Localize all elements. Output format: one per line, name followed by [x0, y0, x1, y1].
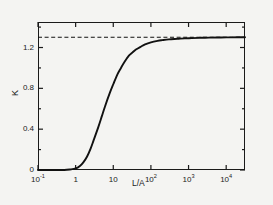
x-tick-label: 10 [98, 176, 128, 184]
x-axis-title: L/A [132, 178, 145, 188]
x-tick-label: 10-1 [23, 176, 53, 184]
y-tick-label: 1.2 [10, 44, 34, 52]
plot-area [38, 22, 245, 170]
y-axis-title: K [10, 90, 20, 96]
axis-ticks [38, 22, 245, 170]
y-tick-label: 0.4 [10, 125, 34, 133]
x-tick-label: 104 [211, 176, 241, 184]
figure-container: 00.40.81.2 10-1110102103104 K L/A [0, 0, 273, 205]
data-curve-k [38, 37, 245, 170]
x-tick-label: 1 [61, 176, 91, 184]
x-tick-label: 103 [174, 176, 204, 184]
y-tick-label: 0 [10, 166, 34, 174]
